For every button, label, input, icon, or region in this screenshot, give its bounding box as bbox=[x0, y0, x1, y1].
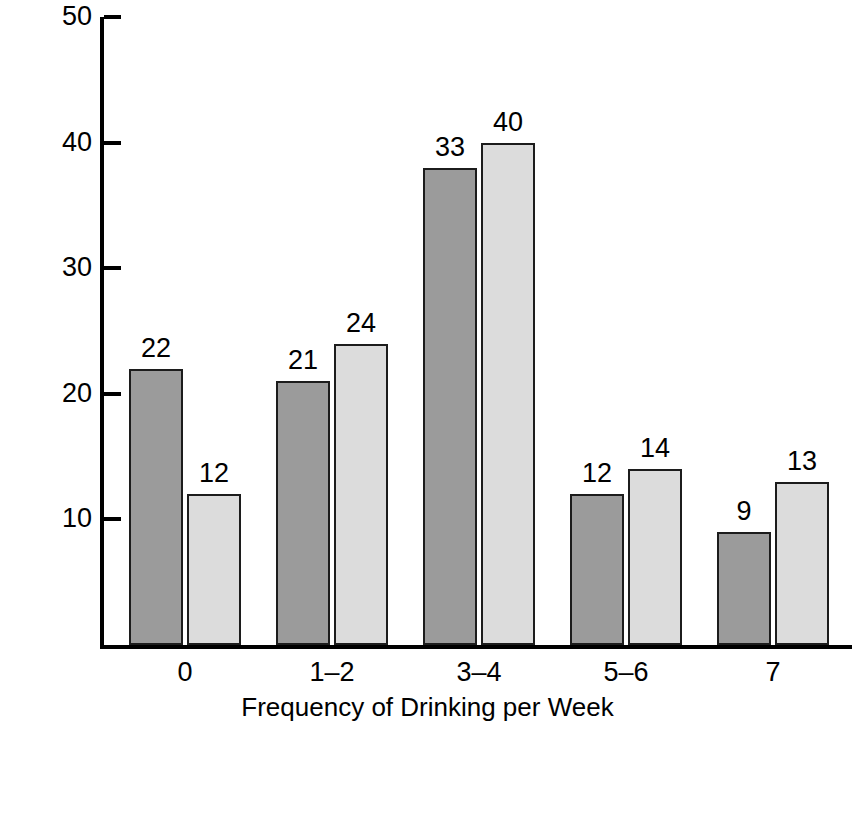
bar-value-label: 24 bbox=[331, 310, 391, 337]
bar-underage-7 bbox=[717, 532, 771, 645]
bar-underage-12 bbox=[276, 381, 330, 645]
x-axis-tick-label: 5–6 bbox=[566, 657, 686, 687]
plot-area: 2212212433401214913 bbox=[104, 17, 852, 645]
bar-underage-0 bbox=[129, 369, 183, 645]
x-axis-tick-label: 0 bbox=[125, 657, 245, 687]
bar-legal-0 bbox=[187, 494, 241, 645]
bar-value-label: 12 bbox=[184, 460, 244, 487]
y-axis-tick-label: 30 bbox=[20, 254, 92, 281]
bar-underage-56 bbox=[570, 494, 624, 645]
y-axis-tick-label: 50 bbox=[20, 3, 92, 30]
bar-value-label: 9 bbox=[714, 498, 774, 525]
bar-legal-7 bbox=[775, 482, 829, 645]
bar-value-label: 22 bbox=[126, 335, 186, 362]
bar-value-label: 21 bbox=[273, 347, 333, 374]
bar-value-label: 40 bbox=[478, 109, 538, 136]
y-axis-tick-label: 40 bbox=[20, 129, 92, 156]
bar-legal-34 bbox=[481, 143, 535, 645]
x-axis-tick-label: 3–4 bbox=[419, 657, 539, 687]
x-axis-tick-label: 1–2 bbox=[272, 657, 392, 687]
bar-chart-figure: Percentage of Students 1020304050 221221… bbox=[0, 0, 855, 828]
x-axis-tick-label: 7 bbox=[713, 657, 833, 687]
bar-value-label: 33 bbox=[420, 134, 480, 161]
bar-legal-56 bbox=[628, 469, 682, 645]
chart-legend: UnderageLegal bbox=[0, 752, 855, 822]
bar-legal-12 bbox=[334, 344, 388, 645]
bar-value-label: 13 bbox=[772, 448, 832, 475]
y-axis-tick-label: 20 bbox=[20, 380, 92, 407]
x-axis-title: Frequency of Drinking per Week bbox=[0, 692, 855, 723]
y-axis-tick-label: 10 bbox=[20, 505, 92, 532]
bar-underage-34 bbox=[423, 168, 477, 645]
bar-value-label: 14 bbox=[625, 435, 685, 462]
x-axis-line bbox=[100, 645, 852, 649]
bar-value-label: 12 bbox=[567, 460, 627, 487]
